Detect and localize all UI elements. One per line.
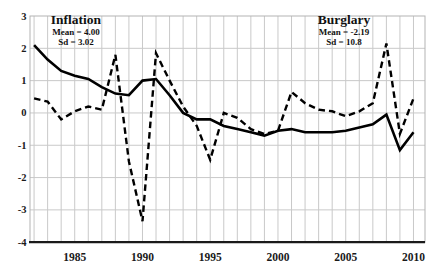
chart-canvas: 1985199019952000200520103210-1-2-3-4 [0, 0, 429, 277]
y-axis-tick-label: -1 [18, 140, 27, 151]
x-axis-tick-label: 1990 [131, 251, 154, 263]
x-axis-tick-label: 2010 [402, 251, 425, 263]
x-axis-tick-label: 2005 [334, 251, 357, 263]
x-axis-tick-label: 2000 [266, 251, 289, 263]
plot-frame [30, 16, 425, 242]
standardized-inflation-burglary-chart: 1985199019952000200520103210-1-2-3-4 Inf… [0, 0, 429, 277]
y-axis-tick-label: 3 [21, 11, 26, 22]
y-axis-tick-label: -4 [18, 237, 27, 248]
y-axis-tick-label: -2 [18, 172, 27, 183]
x-axis-tick-label: 1985 [63, 251, 86, 263]
y-axis-tick-label: 2 [21, 43, 26, 54]
y-axis-tick-label: -3 [18, 204, 27, 215]
y-axis-tick-label: 1 [21, 75, 26, 86]
y-axis-tick-label: 0 [21, 107, 26, 118]
x-axis-tick-label: 1995 [199, 251, 222, 263]
